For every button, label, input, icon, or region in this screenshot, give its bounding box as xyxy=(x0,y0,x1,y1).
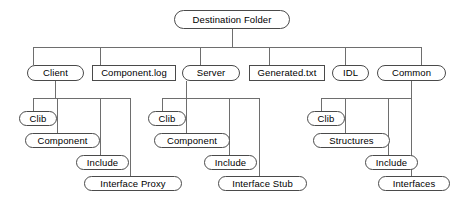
node-label: Interfaces xyxy=(393,179,436,189)
node-common-clib[interactable]: Clib xyxy=(307,111,345,126)
node-generated-txt[interactable]: Generated.txt xyxy=(249,65,325,81)
node-label: Generated.txt xyxy=(258,68,317,78)
node-client-interface-proxy[interactable]: Interface Proxy xyxy=(84,176,182,191)
node-common-include[interactable]: Include xyxy=(365,155,418,170)
node-label: Structures xyxy=(329,136,373,146)
node-client[interactable]: Client xyxy=(27,65,84,81)
node-label: Clib xyxy=(318,114,335,124)
node-label: Destination Folder xyxy=(193,15,272,24)
node-label: IDL xyxy=(343,68,358,78)
node-server-interface-stub[interactable]: Interface Stub xyxy=(218,176,307,191)
node-component-log[interactable]: Component.log xyxy=(92,65,176,81)
node-server[interactable]: Server xyxy=(182,65,240,81)
node-server-component[interactable]: Component xyxy=(154,133,230,148)
node-destination-folder[interactable]: Destination Folder xyxy=(174,10,290,29)
node-label: Server xyxy=(197,68,226,78)
node-label: Client xyxy=(43,68,68,78)
node-label: Component.log xyxy=(101,68,167,78)
node-common-structures[interactable]: Structures xyxy=(313,133,390,148)
node-label: Include xyxy=(87,158,118,168)
node-label: Component xyxy=(37,136,87,146)
node-client-component[interactable]: Component xyxy=(25,133,100,148)
node-server-clib[interactable]: Clib xyxy=(148,111,186,126)
node-label: Common xyxy=(392,68,431,78)
node-label: Interface Stub xyxy=(232,179,293,189)
node-label: Include xyxy=(376,158,407,168)
node-label: Clib xyxy=(30,114,47,124)
node-common[interactable]: Common xyxy=(377,65,446,81)
diagram-canvas: Destination Folder Client Component.log … xyxy=(0,0,468,207)
node-common-interfaces[interactable]: Interfaces xyxy=(378,176,450,191)
node-client-include[interactable]: Include xyxy=(76,155,129,170)
node-idl[interactable]: IDL xyxy=(332,65,369,81)
node-label: Interface Proxy xyxy=(100,179,165,189)
node-label: Include xyxy=(215,158,246,168)
node-label: Component xyxy=(167,136,217,146)
node-client-clib[interactable]: Clib xyxy=(19,111,57,126)
node-server-include[interactable]: Include xyxy=(204,155,257,170)
node-label: Clib xyxy=(159,114,176,124)
